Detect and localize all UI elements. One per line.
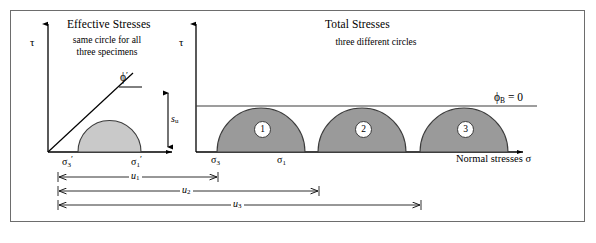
total-friction-angle-label: ϕB = 0 xyxy=(494,92,523,104)
figure-root: Effective Stresses same circle for all t… xyxy=(0,0,596,243)
left-sigma1-label: σ1′ xyxy=(131,155,142,169)
left-panel-tau-axis-label: τ xyxy=(30,37,34,48)
u-subscript: 3 xyxy=(238,202,242,210)
right-sigma1-label: σ1 xyxy=(277,155,286,167)
su-subscript: u xyxy=(175,117,179,125)
sigma-subscript: 1 xyxy=(282,159,286,167)
u-subscript: 1 xyxy=(136,174,140,182)
sigma-prime: ′ xyxy=(71,154,73,164)
effective-stress-circle xyxy=(78,121,141,152)
circle-number-badge-1: 1 xyxy=(254,121,271,138)
phi-prime: ′ xyxy=(126,70,128,80)
left-panel-subtitle-line2: three specimens xyxy=(59,48,155,58)
effective-friction-angle-label: ϕ′ xyxy=(120,71,128,84)
pore-pressure-label-u1: u1 xyxy=(129,171,142,182)
phi-value: = 0 xyxy=(505,91,523,103)
pore-pressure-label-u2: u2 xyxy=(180,185,193,196)
circle-number-badge-2: 2 xyxy=(355,121,372,138)
left-sigma3-label: σ3′ xyxy=(62,155,73,169)
pore-pressure-label-u3: u3 xyxy=(231,199,244,210)
circle-number-badge-3: 3 xyxy=(457,121,474,138)
right-panel-tau-axis-label: τ xyxy=(179,37,183,48)
sigma-subscript: 3 xyxy=(216,159,220,167)
right-panel-title: Total Stresses xyxy=(325,19,390,31)
right-panel-subtitle: three different circles xyxy=(306,38,446,48)
normal-stress-axis-label: Normal stresses σ xyxy=(456,154,531,165)
undrained-shear-strength-label: su xyxy=(171,114,178,125)
left-panel-subtitle-line1: same circle for all xyxy=(59,36,155,46)
left-panel-title: Effective Stresses xyxy=(67,19,151,31)
right-sigma3-label: σ3 xyxy=(211,155,220,167)
sigma-prime: ′ xyxy=(140,154,142,164)
u-subscript: 2 xyxy=(187,188,191,196)
